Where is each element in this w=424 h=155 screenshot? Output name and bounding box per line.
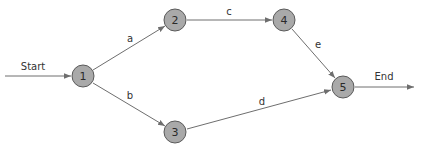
node-5: 5 [332, 76, 354, 98]
edge-label-b: b [127, 90, 133, 101]
edge-d: d [187, 90, 331, 129]
end-arrow: End [355, 71, 414, 87]
node-label-3: 3 [172, 126, 179, 139]
edge-label-c: c [226, 6, 232, 17]
node-3: 3 [164, 121, 186, 143]
start-arrow: Start [5, 61, 71, 76]
edge-c: c [187, 6, 272, 20]
edge-label-d: d [259, 96, 265, 107]
edge-b: b [93, 83, 165, 126]
node-label-2: 2 [172, 14, 179, 27]
node-1: 1 [72, 65, 94, 87]
node-label-4: 4 [281, 14, 288, 27]
node-4: 4 [273, 9, 295, 31]
edge-a: a [93, 26, 165, 70]
node-2: 2 [164, 9, 186, 31]
edge-e: e [292, 29, 335, 78]
edge-label-a: a [127, 33, 133, 44]
edge-label-e: e [315, 39, 321, 50]
end-label: End [374, 71, 393, 82]
node-label-1: 1 [80, 70, 87, 83]
start-label: Start [21, 61, 46, 72]
node-label-5: 5 [340, 81, 347, 94]
network-diagram: Start a b c d e End 1 2 3 [0, 0, 424, 155]
